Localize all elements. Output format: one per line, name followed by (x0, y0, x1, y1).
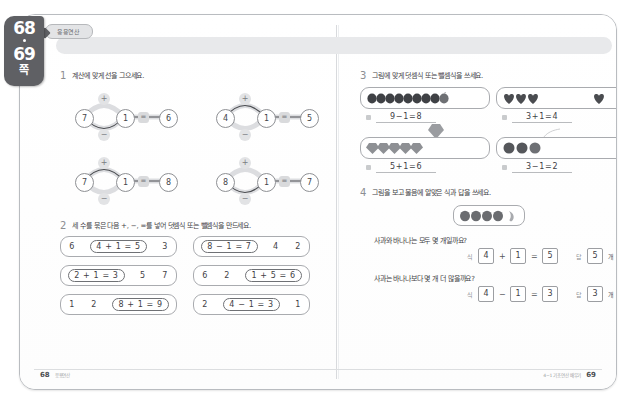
diagram-3[interactable]: 7 + − 1 = 8 (60, 152, 191, 210)
group-box-6-group: 4 − 1 = 3 (223, 298, 279, 311)
group-box-5[interactable]: 1 2 8 + 1 = 9 (60, 294, 177, 315)
diagram-1-plus[interactable]: + (98, 93, 110, 105)
diagram-1-minus[interactable]: − (98, 129, 110, 141)
expr-2-operator: − (499, 290, 505, 299)
workbook-page: 1 계산에 맞게 선을 그으세요. (0, 0, 631, 401)
group-box-5-pre-1: 2 (90, 300, 98, 309)
equation-line-1: 9−1=8 (360, 112, 482, 123)
diagram-4[interactable]: 8 + − 1 = 7 (201, 152, 332, 210)
problem-3-grid: 9−1=8 (360, 87, 616, 173)
problem-4-question-1-text: 사과와 바나나는 모두 몇 개일까요? (374, 235, 616, 245)
berry-icons (366, 92, 474, 105)
group-box-4-pre-1: 2 (223, 271, 231, 280)
problem-1-number: 1 (60, 70, 66, 82)
group-box-1-pre-0: 6 (68, 242, 76, 251)
group-box-2-post-0: 4 (272, 242, 280, 251)
problem-2: 2 세 수를 묶은 다음 +, −, =를 넣어 덧셈식 또는 뺄셈식을 만드세… (60, 220, 332, 315)
unit-chip[interactable]: 응용연산 (45, 24, 93, 39)
fruit-picture-box (453, 205, 525, 226)
diagram-3-right-number: 8 (159, 173, 178, 192)
diagram-4-equals[interactable]: = (279, 176, 290, 187)
diagram-2-minus[interactable]: − (239, 129, 251, 141)
problem-1-instruction: 계산에 맞게 선을 그으세요. (72, 70, 144, 82)
footer-left-page: 68 (40, 371, 50, 379)
diagram-2-plus[interactable]: + (239, 93, 251, 105)
diagram-3-left-number: 7 (75, 173, 94, 192)
group-box-3-group: 2 + 1 = 3 (68, 269, 124, 282)
problem-4: 4 그림을 보고 물음에 알맞은 식과 답을 쓰세요. (360, 187, 616, 302)
picture-cell-1: 9−1=8 (360, 87, 482, 123)
gem-icons (366, 141, 474, 155)
group-box-6-post-0: 1 (294, 300, 302, 309)
equation-4[interactable]: 3−1=2 (512, 162, 572, 173)
group-box-2[interactable]: 8 − 1 = 7 4 2 (193, 236, 310, 257)
group-box-3[interactable]: 2 + 1 = 3 5 7 (60, 265, 177, 286)
group-box-2-post-1: 2 (294, 242, 302, 251)
diagram-1-right-number: 6 (159, 109, 178, 128)
problem-3-number: 3 (360, 70, 366, 82)
ball-icons (502, 141, 610, 155)
diagram-1[interactable]: 7 + − 1 = 6 (60, 88, 191, 146)
footer-right-text: 4−1 기초연산 배우기 (543, 372, 581, 378)
answer-2-value[interactable]: 3 (587, 286, 603, 302)
diagram-3-minus[interactable]: − (98, 193, 110, 205)
page-number-separator-dot (23, 39, 26, 42)
diagram-1-mid-number: 1 (116, 109, 135, 128)
group-box-2-group: 8 − 1 = 7 (201, 240, 257, 253)
group-box-1-post-0: 3 (161, 242, 169, 251)
picture-cell-3: 5+1=6 (360, 137, 482, 173)
group-box-4[interactable]: 6 2 1 + 5 = 6 (193, 265, 310, 286)
header-band (56, 37, 612, 54)
diagram-1-left-number: 7 (75, 109, 94, 128)
expr-label-2: 식 (467, 290, 473, 299)
expr-1-operand-a[interactable]: 4 (478, 248, 494, 264)
equation-3[interactable]: 5+1=6 (376, 162, 436, 173)
expr-2-equals: = (531, 290, 537, 299)
diagram-2-equals[interactable]: = (279, 112, 290, 123)
footer-right: 4−1 기초연산 배우기 69 (543, 371, 596, 379)
equation-line-2: 3+1=4 (496, 112, 616, 123)
page-unit-label: 쪽 (4, 64, 44, 77)
group-box-5-pre-0: 1 (68, 300, 76, 309)
diagram-2-left-number: 4 (216, 109, 235, 128)
problem-4-header: 4 그림을 보고 물음에 알맞은 식과 답을 쓰세요. (360, 187, 616, 199)
expr-label-1: 식 (467, 252, 473, 261)
diagram-3-equals[interactable]: = (138, 176, 149, 187)
footer-rule (34, 369, 602, 370)
picture-box-2 (496, 87, 616, 109)
answer-1-value[interactable]: 5 (587, 248, 603, 264)
group-box-4-group: 1 + 5 = 6 (245, 269, 301, 282)
heart-icons (502, 92, 610, 105)
diagram-4-plus[interactable]: + (239, 157, 251, 169)
equation-line-3: 5+1=6 (360, 162, 482, 173)
diagram-4-minus[interactable]: − (239, 193, 251, 205)
bullet-icon (366, 115, 371, 120)
group-box-3-post-0: 5 (139, 271, 147, 280)
answer-label-1: 답 (576, 252, 582, 261)
problem-2-row: 6 4 + 1 = 5 3 8 − 1 = 7 4 2 (60, 236, 332, 257)
group-box-3-post-1: 7 (161, 271, 169, 280)
answer-2-unit: 개 (608, 290, 614, 299)
group-box-5-group: 8 + 1 = 9 (112, 298, 168, 311)
page-number-tab: 68 69 쪽 (4, 16, 44, 86)
problem-1-diagram-row: 7 + − 1 = 6 (60, 88, 332, 146)
group-box-1[interactable]: 6 4 + 1 = 5 3 (60, 236, 177, 257)
bullet-icon (366, 165, 371, 170)
group-box-4-pre-0: 6 (201, 271, 209, 280)
expr-2-operand-b[interactable]: 1 (510, 286, 526, 302)
page-number-right: 69 (4, 45, 44, 64)
diagram-2[interactable]: 4 + − 1 = 5 (201, 88, 332, 146)
expr-1-operand-b[interactable]: 1 (510, 248, 526, 264)
group-box-6[interactable]: 2 4 − 1 = 3 1 (193, 294, 310, 315)
expr-2-result[interactable]: 3 (542, 286, 558, 302)
problem-3-row: 5+1=6 (360, 137, 616, 173)
bullet-icon (502, 115, 507, 120)
expr-2-operand-a[interactable]: 4 (478, 286, 494, 302)
diagram-1-equals[interactable]: = (138, 112, 149, 123)
diagram-3-plus[interactable]: + (98, 157, 110, 169)
problem-2-row: 2 + 1 = 3 5 7 6 2 1 + 5 = 6 (60, 265, 332, 286)
equation-2[interactable]: 3+1=4 (512, 112, 572, 123)
problem-2-instruction: 세 수를 묶은 다음 +, −, =를 넣어 덧셈식 또는 뺄셈식을 만드세요. (72, 220, 251, 232)
expr-1-result[interactable]: 5 (542, 248, 558, 264)
left-column: 1 계산에 맞게 선을 그으세요. (60, 70, 332, 323)
